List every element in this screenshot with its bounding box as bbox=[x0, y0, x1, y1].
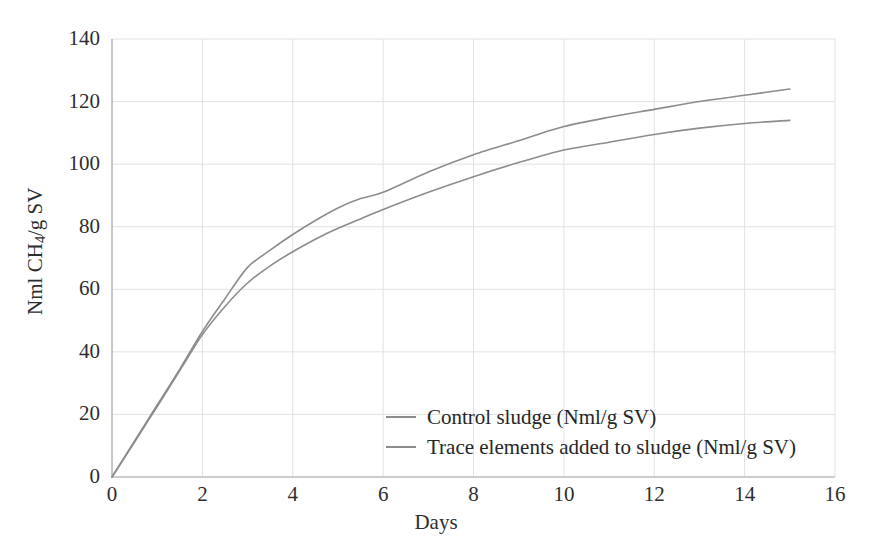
legend-swatch-control bbox=[386, 416, 416, 418]
x-tick-label: 6 bbox=[363, 484, 403, 505]
chart-legend: Control sludge (Nml/g SV) Trace elements… bbox=[386, 402, 796, 462]
y-tick-label: 0 bbox=[40, 466, 100, 487]
y-axis-title-prefix: Nml CH bbox=[23, 243, 47, 315]
y-tick-label: 100 bbox=[40, 153, 100, 174]
legend-label-trace-elements: Trace elements added to sludge (Nml/g SV… bbox=[427, 437, 796, 458]
chart-figure: 020406080100120140 0246810121416 Nml CH4… bbox=[0, 0, 872, 552]
legend-item-trace-elements: Trace elements added to sludge (Nml/g SV… bbox=[386, 432, 796, 462]
plot-canvas bbox=[0, 0, 872, 552]
x-tick-label: 12 bbox=[634, 484, 674, 505]
y-tick-label: 120 bbox=[40, 91, 100, 112]
x-tick-label: 16 bbox=[815, 484, 855, 505]
x-axis-title: Days bbox=[0, 512, 872, 533]
x-tick-label: 4 bbox=[273, 484, 313, 505]
y-tick-label: 140 bbox=[40, 28, 100, 49]
y-tick-label: 60 bbox=[40, 278, 100, 299]
y-axis-title-suffix: /g SV bbox=[23, 188, 47, 236]
y-tick-label: 80 bbox=[40, 216, 100, 237]
x-tick-label: 10 bbox=[544, 484, 584, 505]
y-axis-title: Nml CH4/g SV bbox=[25, 151, 47, 351]
y-tick-label: 20 bbox=[40, 403, 100, 424]
x-tick-label: 8 bbox=[454, 484, 494, 505]
legend-swatch-trace-elements bbox=[386, 446, 416, 448]
legend-item-control: Control sludge (Nml/g SV) bbox=[386, 402, 796, 432]
x-tick-label: 0 bbox=[92, 484, 132, 505]
legend-label-control: Control sludge (Nml/g SV) bbox=[427, 407, 656, 428]
x-tick-label: 14 bbox=[725, 484, 765, 505]
y-axis-title-subscript: 4 bbox=[32, 236, 48, 243]
y-tick-label: 40 bbox=[40, 341, 100, 362]
x-tick-label: 2 bbox=[182, 484, 222, 505]
y-axis-title-text: Nml CH4/g SV bbox=[25, 188, 47, 315]
